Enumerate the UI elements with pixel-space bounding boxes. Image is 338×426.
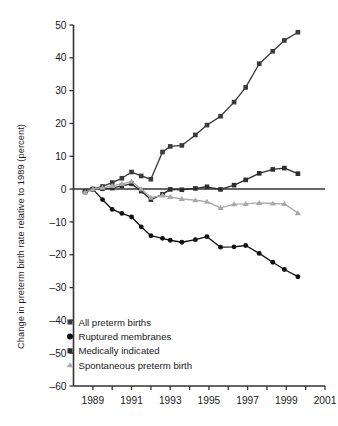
data-point-marker — [232, 244, 237, 249]
data-point-marker — [179, 240, 184, 245]
data-point-marker — [218, 114, 223, 119]
data-point-marker — [257, 61, 262, 66]
x-tick-label: 1995 — [198, 395, 221, 406]
data-point-marker — [110, 207, 115, 212]
data-series — [83, 166, 300, 202]
y-tick-label: –10 — [50, 217, 67, 228]
data-point-marker — [257, 251, 262, 256]
data-point-marker — [218, 245, 223, 250]
data-point-marker — [282, 166, 287, 171]
data-series — [82, 179, 301, 215]
x-tick-label: 1991 — [120, 395, 143, 406]
y-tick-label: –40 — [50, 315, 67, 326]
data-point-marker — [282, 267, 287, 272]
y-axis-tick-labels: 50403020100–10–20–30–40–50–60 — [50, 20, 67, 392]
data-point-marker — [232, 183, 237, 188]
legend-item: Ruptured membranes — [67, 331, 172, 342]
data-point-marker — [120, 176, 125, 181]
data-point-marker — [180, 143, 185, 148]
legend-item: Spontaneous preterm birth — [67, 360, 192, 371]
x-tick-label: 2001 — [314, 395, 337, 406]
data-series-group — [82, 30, 301, 279]
data-series — [83, 30, 300, 194]
data-point-marker — [180, 187, 185, 192]
legend-label: Medically indicated — [79, 345, 160, 356]
data-point-marker — [168, 144, 173, 149]
data-point-marker — [100, 197, 105, 202]
data-point-marker — [128, 179, 134, 184]
data-point-marker — [270, 260, 275, 265]
data-point-marker — [149, 177, 154, 182]
data-point-marker — [160, 236, 165, 241]
legend-label: All preterm births — [79, 317, 152, 328]
data-point-marker — [67, 319, 72, 324]
data-point-marker — [193, 186, 198, 191]
data-point-marker — [129, 215, 134, 220]
data-point-marker — [139, 224, 144, 229]
y-tick-label: 30 — [55, 85, 67, 96]
y-tick-label: 50 — [55, 20, 67, 31]
data-point-marker — [119, 211, 124, 216]
data-point-marker — [67, 362, 74, 367]
data-point-marker — [129, 170, 134, 175]
data-point-marker — [193, 133, 198, 138]
y-tick-label: –50 — [50, 348, 67, 359]
data-point-marker — [243, 243, 248, 248]
data-point-marker — [168, 238, 173, 243]
data-point-marker — [139, 174, 144, 179]
data-point-marker — [232, 100, 237, 105]
y-tick-label: 0 — [61, 184, 67, 195]
legend-item: All preterm births — [67, 317, 151, 328]
data-point-marker — [282, 38, 287, 43]
data-point-marker — [296, 171, 301, 176]
data-point-marker — [193, 237, 198, 242]
data-point-marker — [67, 333, 73, 339]
x-tick-label: 1993 — [159, 395, 182, 406]
y-tick-label: 10 — [55, 151, 67, 162]
data-point-marker — [295, 274, 300, 279]
legend-item: Medically indicated — [67, 345, 159, 356]
data-point-marker — [168, 187, 173, 192]
data-point-marker — [257, 171, 262, 176]
data-point-marker — [205, 184, 210, 189]
y-tick-label: –30 — [50, 282, 67, 293]
x-tick-label: 1989 — [82, 395, 105, 406]
data-point-marker — [160, 150, 165, 155]
data-point-marker — [67, 348, 72, 353]
data-point-marker — [270, 49, 275, 54]
y-tick-label: 40 — [55, 52, 67, 63]
data-point-marker — [205, 234, 210, 239]
legend-label: Ruptured membranes — [79, 331, 172, 342]
data-point-marker — [205, 123, 210, 128]
data-point-marker — [148, 233, 153, 238]
data-point-marker — [270, 167, 275, 172]
legend-label: Spontaneous preterm birth — [79, 360, 193, 371]
data-point-marker — [243, 178, 248, 183]
chart-legend: All preterm birthsRuptured membranesMedi… — [67, 317, 192, 371]
x-tick-label: 1997 — [236, 395, 259, 406]
x-tick-label: 1999 — [275, 395, 298, 406]
y-tick-label: –20 — [50, 249, 67, 260]
y-tick-label: 20 — [55, 118, 67, 129]
data-point-marker — [218, 187, 223, 192]
data-point-marker — [296, 30, 301, 35]
y-tick-label: –60 — [50, 381, 67, 392]
data-point-marker — [243, 85, 248, 90]
chart-figure: Change in preterm birth rate relative to… — [0, 0, 338, 426]
line-chart-plot: 50403020100–10–20–30–40–50–60 1989199119… — [0, 0, 338, 426]
x-axis-tick-labels: 1989199119931995199719992001 — [82, 395, 337, 406]
